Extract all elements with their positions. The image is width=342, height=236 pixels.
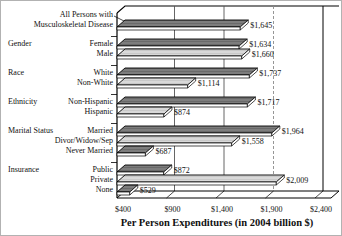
label-leader-line bbox=[114, 16, 124, 21]
category-label: Hispanic bbox=[85, 107, 114, 116]
category-label: All Persons with bbox=[60, 10, 113, 19]
x-tick-label: $1,900 bbox=[261, 205, 283, 214]
bar-value-label: $1,717 bbox=[257, 98, 279, 107]
bar-front-face bbox=[117, 153, 145, 156]
bar-top-face bbox=[117, 20, 248, 27]
x-tick-label: $900 bbox=[165, 205, 181, 214]
bar-front-face bbox=[117, 192, 130, 195]
category-label: Non-Hispanic bbox=[68, 97, 113, 106]
bar-value-label: $2,009 bbox=[286, 176, 308, 185]
bar-value-label: $1,660 bbox=[252, 50, 274, 59]
bar-value-label: $529 bbox=[140, 186, 156, 195]
bar-front-face bbox=[117, 182, 276, 185]
category-label: Divor/Widow/Sep bbox=[55, 136, 113, 145]
bar-value-label: $1,114 bbox=[198, 79, 220, 88]
category-label: Female bbox=[89, 39, 113, 48]
bar-front-face bbox=[117, 85, 188, 88]
category-label: Never Married bbox=[66, 146, 113, 155]
bar-front-face bbox=[117, 114, 164, 117]
x-tick-label: $400 bbox=[115, 205, 131, 214]
bar-top-face bbox=[117, 175, 284, 182]
group-label: Ethnicity bbox=[8, 97, 37, 106]
category-label: Non-White bbox=[77, 78, 113, 87]
bar-top-face bbox=[117, 165, 172, 172]
category-label: Public bbox=[93, 165, 114, 174]
bar-value-label: $1,645 bbox=[250, 21, 272, 30]
bar-front-face bbox=[117, 27, 240, 30]
group-label: Gender bbox=[8, 39, 32, 48]
bar-front-face bbox=[117, 56, 242, 59]
bar-top-face bbox=[117, 136, 240, 143]
bar-value-label: $872 bbox=[174, 166, 190, 175]
category-label: Musculoskeletal Disease bbox=[34, 20, 114, 29]
bar-value-label: $874 bbox=[174, 108, 190, 117]
bar-top-face bbox=[117, 126, 280, 133]
x-tick-label: $1,400 bbox=[211, 205, 233, 214]
group-label: Race bbox=[8, 68, 24, 77]
chart-figure: $1,645$1,634$1,660$1,737$1,114$1,717$874… bbox=[0, 0, 342, 236]
category-label: Married bbox=[87, 126, 113, 135]
x-axis-title: Per Person Expenditures (in 2004 billion… bbox=[95, 217, 339, 228]
expenditure-bar-chart: $1,645$1,634$1,660$1,737$1,114$1,717$874… bbox=[1, 1, 342, 236]
bar-value-label: $1,634 bbox=[249, 40, 271, 49]
bar-top-face bbox=[117, 39, 247, 46]
bar-value-label: $1,964 bbox=[282, 127, 304, 136]
bar-value-label: $1,558 bbox=[242, 137, 264, 146]
bar-top-face bbox=[117, 97, 255, 104]
category-label: None bbox=[96, 185, 114, 194]
x-tick-label: $2,400 bbox=[310, 205, 332, 214]
group-label: Marital Status bbox=[8, 126, 53, 135]
bar-top-face bbox=[117, 49, 250, 56]
bar-top-face bbox=[117, 107, 172, 114]
group-label: Insurance bbox=[8, 165, 40, 174]
category-label: White bbox=[93, 68, 113, 77]
category-label: Private bbox=[90, 175, 113, 184]
back-wall-top-edge bbox=[117, 6, 339, 13]
category-label: Male bbox=[97, 49, 114, 58]
bar-top-face bbox=[117, 78, 196, 85]
bar-value-label: $1,737 bbox=[259, 69, 281, 78]
bar-value-label: $687 bbox=[155, 147, 171, 156]
bar-top-face bbox=[117, 68, 257, 75]
